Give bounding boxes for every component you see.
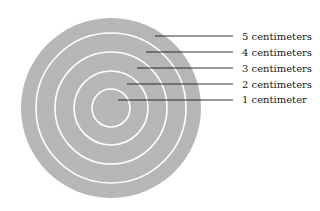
label-2cm: 2 centimeters [242, 79, 312, 90]
label-5cm: 5 centimeters [242, 31, 312, 42]
label-4cm: 4 centimeters [242, 47, 312, 58]
label-3cm: 3 centimeters [242, 63, 312, 74]
outer-disk [21, 18, 201, 198]
label-1cm: 1 centimeter [242, 94, 307, 105]
